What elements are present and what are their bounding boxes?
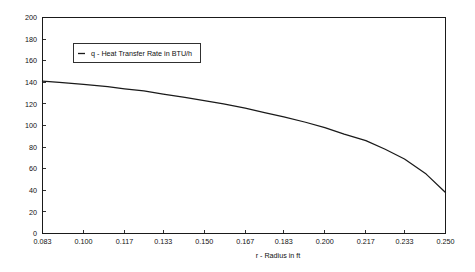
x-tick-label: 0.167 xyxy=(236,237,254,246)
line-chart: 020406080100120140160180200 0.0830.1000.… xyxy=(0,0,475,272)
y-tick-label: 160 xyxy=(25,56,37,65)
chart-container: 020406080100120140160180200 0.0830.1000.… xyxy=(0,0,475,272)
x-tick-label: 0.183 xyxy=(275,237,293,246)
x-tick-label: 0.217 xyxy=(357,237,375,246)
y-tick-label: 80 xyxy=(29,143,37,152)
x-tick-label: 0.150 xyxy=(195,237,213,246)
y-tick-label: 120 xyxy=(25,100,37,109)
y-tick-label: 200 xyxy=(25,13,37,22)
x-tick-label: 0.250 xyxy=(437,237,455,246)
legend-label-heat-transfer-rate: q - Heat Transfer Rate in BTU/h xyxy=(91,49,192,58)
chart-legend: q - Heat Transfer Rate in BTU/h xyxy=(74,44,201,63)
x-tick-label: 0.133 xyxy=(154,237,172,246)
series-line-heat-transfer-rate xyxy=(43,81,446,192)
x-axis: 0.0830.1000.1170.1330.1500.1670.1830.200… xyxy=(34,230,455,246)
x-tick-label: 0.200 xyxy=(316,237,334,246)
y-tick-label: 180 xyxy=(25,35,37,44)
series-group xyxy=(43,81,446,192)
y-tick-label: 140 xyxy=(25,78,37,87)
x-axis-title: r - Radius in ft xyxy=(256,251,301,260)
y-tick-label: 20 xyxy=(29,208,37,217)
x-tick-label: 0.100 xyxy=(75,237,93,246)
y-tick-label: 40 xyxy=(29,186,37,195)
x-tick-label: 0.117 xyxy=(116,237,133,246)
y-tick-label: 100 xyxy=(25,121,37,130)
x-tick-label: 0.233 xyxy=(395,237,413,246)
x-tick-label: 0.083 xyxy=(34,237,52,246)
y-tick-label: 60 xyxy=(29,164,37,173)
